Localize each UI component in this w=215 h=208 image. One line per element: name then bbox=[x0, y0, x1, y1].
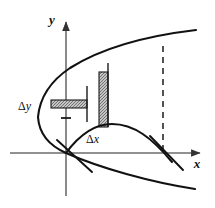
figure-container: y x Δy Δx bbox=[0, 0, 215, 208]
delta-x-bar bbox=[99, 72, 108, 127]
delta-x-label: Δx bbox=[86, 132, 100, 146]
delta-y-label: Δy bbox=[18, 99, 32, 113]
y-axis-label: y bbox=[47, 12, 55, 27]
x-axis-label: x bbox=[193, 156, 201, 171]
math-diagram: y x Δy Δx bbox=[0, 0, 215, 208]
delta-x-variable: x bbox=[93, 132, 100, 146]
delta-y-bar bbox=[51, 100, 87, 108]
increment-regions bbox=[51, 72, 108, 127]
delta-y-variable: y bbox=[25, 99, 32, 113]
curves-group bbox=[38, 30, 196, 189]
